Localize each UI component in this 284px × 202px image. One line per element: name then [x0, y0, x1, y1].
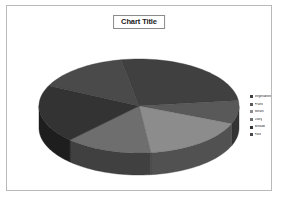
legend-item-label: Dairy	[255, 118, 263, 121]
pie-top-slices	[39, 59, 239, 153]
page-title: Chart Title	[121, 18, 157, 26]
chart-title-box[interactable]: Chart Title	[113, 15, 165, 29]
chart-frame: Chart Title VegetablesFruitsMeatsDairyBr…	[6, 5, 272, 191]
legend-item[interactable]: Breads	[250, 123, 280, 131]
legend-item-label: Vegetables	[255, 95, 272, 98]
legend-item[interactable]: Fats	[250, 131, 280, 139]
legend-item[interactable]: Vegetables	[250, 93, 280, 101]
legend: VegetablesFruitsMeatsDairyBreadsFats	[250, 93, 280, 139]
legend-item[interactable]: Dairy	[250, 116, 280, 124]
legend-item-label: Breads	[255, 125, 266, 128]
legend-swatch-icon	[250, 103, 253, 106]
pie-chart-graphic	[7, 6, 273, 192]
legend-swatch-icon	[250, 95, 253, 98]
legend-item[interactable]: Fruits	[250, 101, 280, 109]
legend-item-label: Fruits	[255, 103, 263, 106]
legend-item[interactable]: Meats	[250, 108, 280, 116]
legend-item-label: Fats	[255, 133, 262, 136]
legend-swatch-icon	[250, 118, 253, 121]
legend-swatch-icon	[250, 133, 253, 136]
legend-swatch-icon	[250, 110, 253, 113]
pie-slice[interactable]	[121, 59, 238, 106]
legend-swatch-icon	[250, 126, 253, 129]
legend-item-label: Meats	[255, 110, 264, 113]
plot-area	[7, 6, 273, 192]
